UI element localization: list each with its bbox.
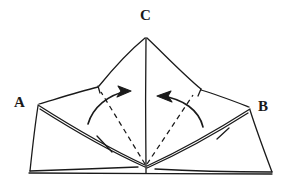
origami-fold-diagram: C A B bbox=[0, 0, 287, 191]
right-valley-crease-dashed bbox=[147, 95, 193, 164]
right-top-edge bbox=[201, 90, 249, 107]
right-interior-crease bbox=[217, 128, 229, 139]
fold-left-arrow-head bbox=[117, 86, 131, 97]
right-flap-right-edge bbox=[250, 110, 272, 172]
fold-diagram-canvas bbox=[0, 0, 287, 191]
apex-left-edge bbox=[99, 38, 145, 86]
right-flap-bottom-edge bbox=[155, 169, 272, 172]
vertex-label-b: B bbox=[258, 99, 268, 114]
fold-right-arrow-head bbox=[157, 91, 172, 102]
apex-right-edge bbox=[147, 38, 201, 89]
vertex-label-a: A bbox=[14, 95, 25, 110]
fold-right-arrow bbox=[157, 91, 203, 127]
left-top-edge bbox=[39, 87, 98, 104]
base-line bbox=[29, 173, 272, 174]
fold-left-arrow-shaft bbox=[88, 91, 127, 124]
vertex-label-c: C bbox=[140, 8, 151, 23]
left-flap-left-edge bbox=[30, 106, 38, 171]
left-valley-crease-dashed bbox=[101, 92, 145, 164]
fold-left-arrow bbox=[88, 86, 131, 124]
left-flap-bottom-edge bbox=[30, 167, 138, 171]
